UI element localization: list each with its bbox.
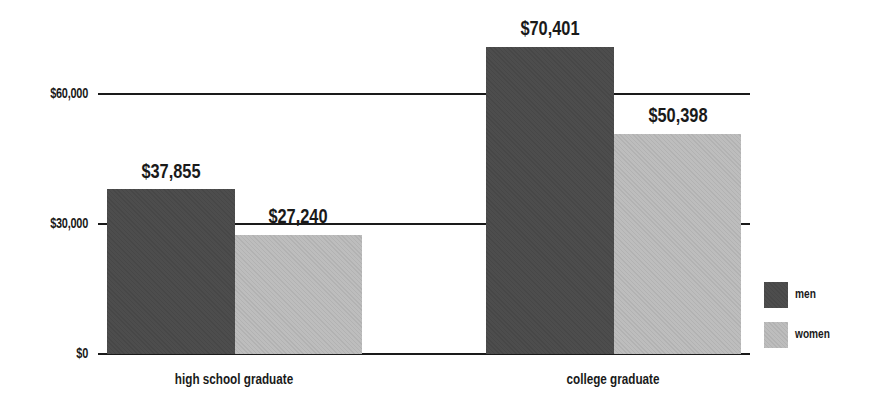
- legend-swatch-men: [764, 282, 788, 308]
- ytick-label-30000: $30,000: [19, 215, 88, 231]
- xaxis-label-high-school: high school graduate: [133, 370, 336, 387]
- bar-women-high-school: [235, 235, 362, 354]
- legend-swatch-women: [764, 322, 788, 348]
- bar-chart: $60,000 $30,000 $0 $37,855 $27,240 $70,4…: [0, 0, 872, 406]
- bar-women-college: [614, 134, 741, 354]
- value-label-women-high-school: $27,240: [236, 204, 361, 228]
- xaxis-label-college: college graduate: [512, 370, 715, 387]
- bar-men-college: [486, 47, 614, 354]
- value-label-women-college: $50,398: [616, 103, 741, 127]
- legend-label-men: men: [795, 286, 816, 301]
- value-label-men-college: $70,401: [488, 16, 613, 40]
- bar-men-high-school: [107, 189, 235, 354]
- value-label-men-high-school: $37,855: [109, 159, 234, 183]
- gridline-60000: [98, 93, 750, 95]
- ytick-label-0: $0: [19, 345, 88, 361]
- legend-label-women: women: [795, 326, 830, 341]
- ytick-label-60000: $60,000: [19, 85, 88, 101]
